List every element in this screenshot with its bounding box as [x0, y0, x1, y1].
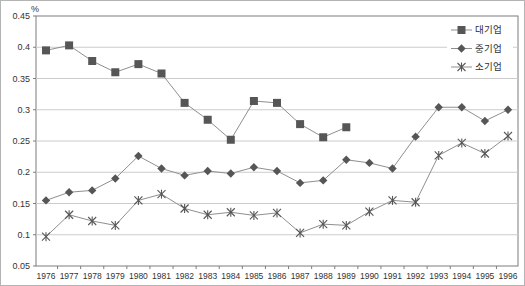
legend-label: 중기업: [475, 43, 502, 54]
x-tick-label: 1995: [475, 271, 494, 281]
y-tick-label: 0.35: [12, 74, 30, 84]
x-tick-label: 1990: [360, 271, 379, 281]
x-tick-label: 1976: [37, 271, 56, 281]
legend-label: 대기업: [475, 24, 502, 35]
y-tick-label: 0.3: [17, 105, 30, 115]
x-axis: 1976197719781979198019811982198319841985…: [37, 266, 518, 281]
x-tick-label: 1992: [406, 271, 425, 281]
x-tick-label: 1986: [268, 271, 287, 281]
x-tick-label: 1978: [83, 271, 102, 281]
x-tick-label: 1996: [499, 271, 518, 281]
x-tick-label: 1987: [291, 271, 310, 281]
x-tick-label: 1979: [106, 271, 125, 281]
chart-canvas: 0.450.40.350.30.250.20.150.10.05%1976197…: [1, 1, 525, 286]
x-tick-label: 1994: [452, 271, 471, 281]
y-axis-unit-label: %: [31, 4, 39, 14]
y-tick-label: 0.05: [12, 261, 30, 271]
x-tick-label: 1991: [383, 271, 402, 281]
x-tick-label: 1989: [337, 271, 356, 281]
y-tick-label: 0.4: [17, 42, 30, 52]
x-tick-label: 1984: [221, 271, 240, 281]
y-tick-label: 0.45: [12, 11, 30, 21]
x-tick-label: 1982: [175, 271, 194, 281]
y-tick-label: 0.25: [12, 136, 30, 146]
line-chart: 0.450.40.350.30.250.20.150.10.05%1976197…: [0, 0, 525, 286]
x-tick-label: 1981: [152, 271, 171, 281]
legend-label: 소기업: [475, 61, 502, 72]
y-tick-label: 0.1: [17, 230, 30, 240]
y-axis: 0.450.40.350.30.250.20.150.10.05: [12, 11, 36, 271]
x-tick-label: 1988: [314, 271, 333, 281]
x-tick-label: 1983: [198, 271, 217, 281]
legend: 대기업중기업소기업: [447, 20, 513, 75]
x-tick-label: 1985: [244, 271, 263, 281]
x-tick-label: 1980: [129, 271, 148, 281]
y-tick-label: 0.2: [17, 167, 30, 177]
y-tick-label: 0.15: [12, 199, 30, 209]
x-tick-label: 1977: [60, 271, 79, 281]
x-tick-label: 1993: [429, 271, 448, 281]
